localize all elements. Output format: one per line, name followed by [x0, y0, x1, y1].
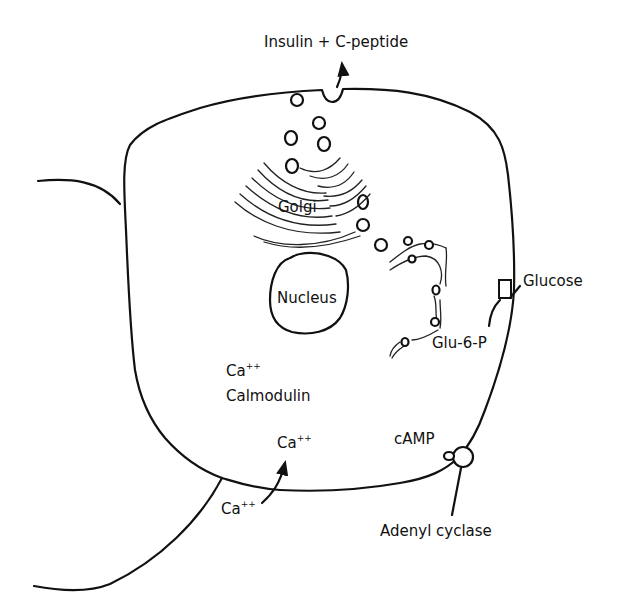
camp-body — [444, 452, 454, 460]
glu6p-label: Glu-6-P — [432, 336, 487, 351]
adenyl-cyclase-body — [453, 447, 473, 467]
glu6p-pointer — [489, 300, 500, 326]
neighbor-cell-lower — [34, 478, 222, 590]
glucose-transporter — [499, 280, 511, 298]
camp-label: cAMP — [394, 432, 435, 447]
ca-extracellular-label: Ca++ — [221, 502, 256, 517]
secretory-granule — [285, 131, 297, 145]
golgi-label: Golgi — [278, 200, 317, 215]
secretory-granule — [313, 117, 325, 129]
ca-base: Ca — [221, 500, 241, 518]
ca-influx-arrow — [262, 463, 285, 503]
secretory-granule — [357, 219, 369, 231]
ca-base: Ca — [226, 362, 246, 380]
insulin-cpeptide-label: Insulin + C-peptide — [264, 35, 408, 50]
secretory-granule — [286, 159, 298, 173]
adenyl-cyclase-pointer — [452, 468, 461, 515]
secretory-granule — [375, 239, 387, 251]
neighbor-cell-upper — [38, 180, 120, 204]
ca-influx-label: Ca++ — [277, 436, 312, 451]
secretory-granule — [318, 137, 330, 151]
ca-base: Ca — [277, 434, 297, 452]
ca-charge: ++ — [246, 361, 261, 371]
ca-intracellular-label: Ca++ — [226, 364, 261, 379]
nucleus-label: Nucleus — [277, 291, 337, 306]
calmodulin-label: Calmodulin — [226, 389, 311, 404]
glucose-label: Glucose — [523, 274, 583, 289]
secretion-arrow — [337, 64, 342, 87]
ca-charge: ++ — [241, 499, 256, 509]
ca-charge: ++ — [297, 433, 312, 443]
beta-cell-diagram: Insulin + C-peptide Golgi Nucleus Glucos… — [0, 0, 627, 608]
adenyl-cyclase-label: Adenyl cyclase — [380, 524, 492, 539]
secretory-granule — [291, 94, 303, 106]
